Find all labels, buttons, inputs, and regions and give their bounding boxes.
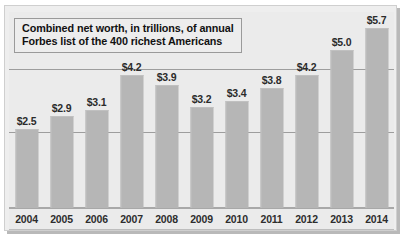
chart-panel: $2.5$2.9$3.1$4.2$3.9$3.2$3.4$3.8$4.2$5.0… — [4, 5, 397, 231]
bar-2006 — [85, 110, 108, 208]
bar-value-label-2006: $3.1 — [87, 96, 107, 108]
bar-slot: $5.7 — [359, 12, 394, 208]
bar-2005 — [50, 116, 73, 208]
x-tick-2004: 2004 — [15, 213, 38, 225]
chart-figure: $2.5$2.9$3.1$4.2$3.9$3.2$3.4$3.8$4.2$5.0… — [0, 0, 406, 240]
x-tick-2008: 2008 — [155, 213, 178, 225]
bar-value-label-2014: $5.7 — [367, 14, 387, 26]
bar-slot: $3.8 — [254, 12, 289, 208]
panel-bottom-edge — [9, 229, 394, 231]
bar-value-label-2008: $3.9 — [157, 71, 177, 83]
x-tick-2007: 2007 — [120, 213, 143, 225]
x-tick-2010: 2010 — [225, 213, 248, 225]
bar-2011 — [260, 88, 283, 208]
bar-2010 — [225, 101, 248, 209]
bar-value-label-2007: $4.2 — [122, 61, 142, 73]
bar-2008 — [155, 85, 178, 208]
x-tick-2009: 2009 — [190, 213, 213, 225]
bar-value-label-2004: $2.5 — [17, 115, 37, 127]
bar-2004 — [15, 129, 38, 208]
bar-slot: $4.2 — [289, 12, 324, 208]
bar-slot: $5.0 — [324, 12, 359, 208]
bar-2013 — [330, 50, 353, 208]
chart-title-line-1: Combined net worth, in trillions, of ann… — [22, 22, 234, 35]
x-tick-2013: 2013 — [330, 213, 353, 225]
x-tick-2011: 2011 — [261, 213, 283, 225]
bar-value-label-2012: $4.2 — [297, 61, 317, 73]
bar-2012 — [295, 75, 318, 208]
chart-title-box: Combined net worth, in trillions, of ann… — [14, 18, 242, 53]
x-tick-2005: 2005 — [50, 213, 73, 225]
x-tick-2012: 2012 — [295, 213, 318, 225]
bar-value-label-2011: $3.8 — [262, 74, 282, 86]
bar-value-label-2009: $3.2 — [192, 93, 212, 105]
bar-value-label-2013: $5.0 — [332, 36, 352, 48]
chart-title-line-2: Forbes list of the 400 richest Americans — [22, 35, 234, 48]
bar-value-label-2010: $3.4 — [227, 87, 247, 99]
bar-2014 — [365, 28, 388, 208]
x-tick-2014: 2014 — [365, 213, 388, 225]
x-axis-labels: 2004200520062007200820092010201120122013… — [9, 208, 394, 229]
bar-2009 — [190, 107, 213, 208]
x-tick-2006: 2006 — [85, 213, 108, 225]
bar-2007 — [120, 75, 143, 208]
bar-value-label-2005: $2.9 — [52, 102, 72, 114]
